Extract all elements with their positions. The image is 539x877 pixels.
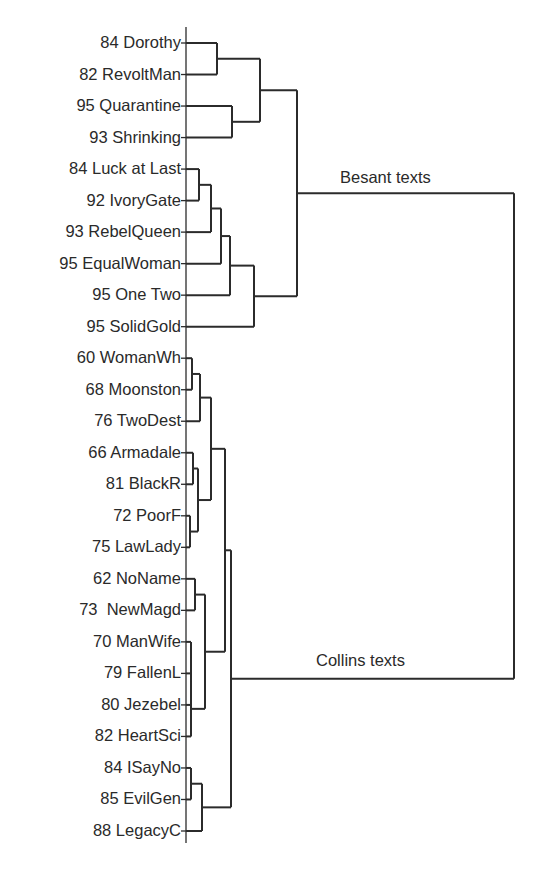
- leaf-label: 93 RebelQueen: [65, 222, 181, 240]
- leaf-label: 79 FallenL: [104, 663, 181, 681]
- leaf-label: 85 EvilGen: [100, 789, 181, 807]
- leaf-label: 84 Dorothy: [100, 33, 181, 51]
- leaf-label: 82 HeartSci: [95, 726, 181, 744]
- leaf-label: 60 WomanWh: [77, 348, 181, 366]
- dendrogram-branches: [0, 0, 539, 877]
- leaf-label: 82 RevoltMan: [79, 65, 181, 83]
- leaf-label: 81 BlackR: [106, 474, 181, 492]
- leaf-label: 93 Shrinking: [89, 128, 181, 146]
- leaf-label: 95 SolidGold: [87, 317, 181, 335]
- leaf-label: 70 ManWife: [93, 632, 181, 650]
- leaf-label: 62 NoName: [93, 569, 181, 587]
- cluster-label-besant: Besant texts: [340, 168, 431, 187]
- leaf-label: 73 NewMagd: [79, 600, 181, 618]
- dendrogram: 84 Dorothy82 RevoltMan95 Quarantine93 Sh…: [0, 0, 539, 877]
- leaf-label: 75 LawLady: [92, 537, 181, 555]
- leaf-label: 95 One Two: [92, 285, 181, 303]
- leaf-label: 84 Luck at Last: [69, 159, 181, 177]
- leaf-label: 68 Moonston: [86, 380, 181, 398]
- leaf-label: 84 ISayNo: [104, 758, 181, 776]
- leaf-label: 76 TwoDest: [94, 411, 181, 429]
- cluster-label-collins: Collins texts: [316, 651, 405, 670]
- leaf-label: 92 IvoryGate: [87, 191, 181, 209]
- leaf-label: 95 EqualWoman: [59, 254, 181, 272]
- leaf-label: 66 Armadale: [88, 443, 181, 461]
- leaf-label: 88 LegacyC: [93, 821, 181, 839]
- leaf-label: 95 Quarantine: [76, 96, 181, 114]
- leaf-label: 80 Jezebel: [101, 695, 181, 713]
- leaf-label: 72 PoorF: [113, 506, 181, 524]
